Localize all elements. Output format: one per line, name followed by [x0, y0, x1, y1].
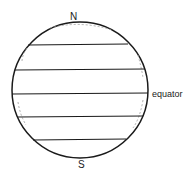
latitude-line-4 — [17, 116, 143, 117]
south-label: S — [78, 159, 85, 170]
latitude-line-5 — [33, 139, 126, 140]
equator-line — [12, 93, 148, 94]
equator-label: equator — [152, 89, 183, 99]
north-label: N — [70, 11, 77, 22]
latitude-line-2 — [15, 69, 145, 70]
earth-diagram: N S equator — [0, 0, 195, 175]
globe-outline — [12, 22, 148, 158]
globe-shading — [18, 24, 143, 128]
latitude-line-1 — [28, 44, 128, 45]
